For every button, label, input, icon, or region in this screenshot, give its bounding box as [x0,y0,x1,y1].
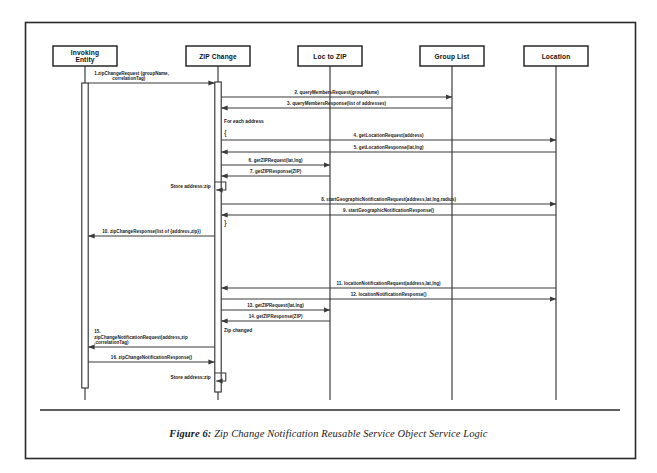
lifeline-label: Location [542,53,571,60]
activation-invoking-entity [82,83,88,388]
note-loop-close-brace: } [224,218,227,227]
lifeline-location[interactable]: Location [524,46,588,400]
lifeline-label: Invoking [71,49,99,57]
message-label: zipChangeNotificationRequest(address,zip [94,335,188,340]
figure-caption-text: Zip Change Notification Reusable Service… [214,428,488,439]
figure-caption-prefix: Figure 6: [169,428,211,439]
message-14[interactable]: 14. getZIPResponse(ZIP) [221,314,330,321]
figure-container: InvokingEntityZIP ChangeLoc to ZIPGroup … [0,0,657,473]
messages-group: 1.zipChangeRequest (groupName,correlatio… [88,71,556,362]
sequence-diagram: InvokingEntityZIP ChangeLoc to ZIPGroup … [0,0,657,473]
figure-caption: Figure 6: Zip Change Notification Reusab… [0,428,657,439]
activation-bars-group [82,82,221,392]
note-loop-open-brace: { [224,128,227,137]
message-15[interactable]: 15.zipChangeNotificationRequest(address,… [88,329,215,347]
message-2[interactable]: 2. queryMembersRequest(groupName) [221,90,452,97]
notes-group: For each address{}Zip changed [224,119,264,333]
message-label: ,correlationTag) [94,340,129,345]
note-zip-changed: Zip changed [224,328,252,333]
message-label: 12. locationNotificationResponse() [351,292,427,297]
message-label: 5. getLocationResponse(lat,lng) [354,145,424,150]
message-5[interactable]: 5. getLocationResponse(lat,lng) [221,145,556,152]
message-7[interactable]: 7. getZIPResponse(ZIP) [221,169,330,176]
message-label: 10. zipChangeResponse(list of {address,z… [102,229,201,234]
note-for-each-address: For each address [224,119,264,124]
message-label: 7. getZIPResponse(ZIP) [250,169,302,174]
message-label: 16. zipChangeNotificationResponse() [111,355,193,360]
message-10[interactable]: 10. zipChangeResponse(list of {address,z… [88,229,215,236]
lifeline-group-list[interactable]: Group List [420,46,484,400]
message-12[interactable]: 12. locationNotificationResponse() [221,292,556,299]
self-action-label: Store address:zip [171,375,211,380]
activation-zip-change [215,82,221,392]
message-label: 8. startGeographicNotificationRequest(ad… [321,197,456,202]
message-label: 3. queryMembersResponse(list of addresse… [287,101,387,106]
message-9[interactable]: 9. startGeographicNotificationResponse() [221,208,556,215]
message-16[interactable]: 16. zipChangeNotificationResponse() [88,355,215,362]
message-1[interactable]: 1.zipChangeRequest (groupName,correlatio… [88,71,215,83]
self-action-label: Store address:zip [171,184,211,189]
message-8[interactable]: 8. startGeographicNotificationRequest(ad… [221,197,556,204]
message-label: 2. queryMembersRequest(groupName) [294,90,379,95]
lifeline-label: Loc to ZIP [313,53,347,60]
message-label: 9. startGeographicNotificationResponse() [343,208,434,213]
message-13[interactable]: 13. getZIPRequest(lat,lng) [221,303,330,310]
message-3[interactable]: 3. queryMembersResponse(list of addresse… [221,101,452,108]
message-label: 15. [94,329,100,334]
lifeline-label: ZIP Change [199,53,237,61]
message-label: 11. locationNotificationRequest(address,… [337,281,442,286]
message-6[interactable]: 6. getZIPRequest(lat,lng) [221,158,330,165]
lifeline-label-line2: Entity [75,56,94,64]
message-4[interactable]: 4. getLocationRequest(address) [221,133,556,140]
message-11[interactable]: 11. locationNotificationRequest(address,… [221,281,556,288]
message-label: correlationTag) [112,76,146,81]
message-label: 4. getLocationRequest(address) [354,133,424,138]
message-label: 6. getZIPRequest(lat,lng) [249,158,303,163]
lifeline-loc-to-zip[interactable]: Loc to ZIP [298,46,362,400]
lifeline-label: Group List [435,53,470,61]
message-label: 13. getZIPRequest(lat,lng) [247,303,304,308]
message-label: 1.zipChangeRequest (groupName, [94,71,169,76]
message-label: 14. getZIPResponse(ZIP) [249,314,303,319]
